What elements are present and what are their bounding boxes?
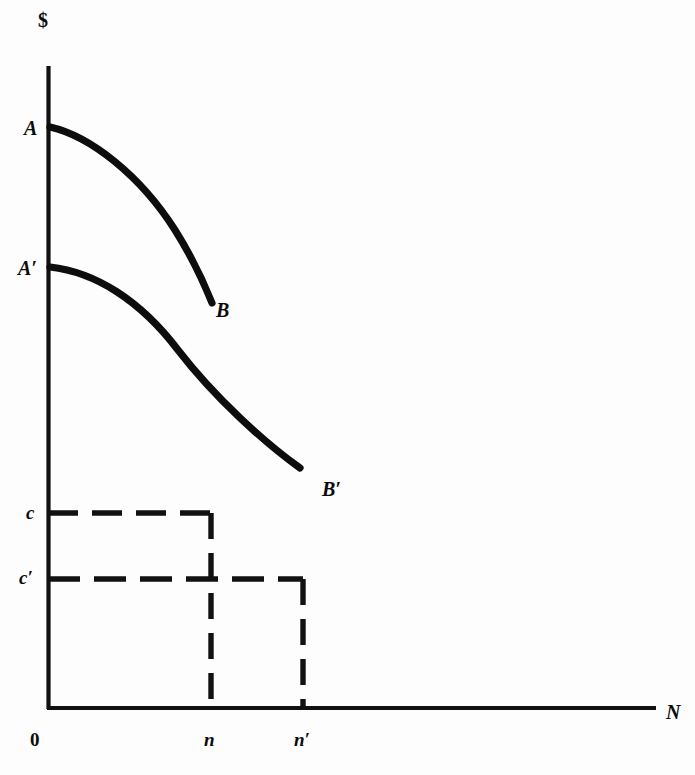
economics-figure: $ A A′ B B′ c c′ n n′ 0 N xyxy=(0,0,695,775)
origin-label: 0 xyxy=(30,730,40,749)
label-a-prime: A′ xyxy=(18,258,37,278)
label-c-prime: c′ xyxy=(19,568,33,587)
label-b: B xyxy=(216,300,229,320)
y-axis-label: $ xyxy=(38,10,48,30)
label-n-prime: n′ xyxy=(294,730,310,749)
x-axis-label: N xyxy=(666,702,680,722)
label-c: c xyxy=(26,503,34,522)
curve-a-prime-b-prime xyxy=(50,267,300,468)
label-a: A xyxy=(24,118,37,138)
chart-canvas xyxy=(0,0,695,775)
label-n: n xyxy=(204,730,215,749)
curve-ab xyxy=(50,127,212,303)
label-b-prime: B′ xyxy=(322,479,341,499)
